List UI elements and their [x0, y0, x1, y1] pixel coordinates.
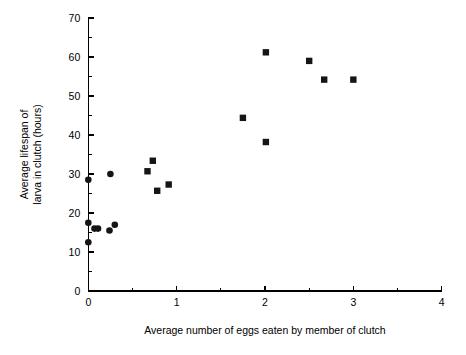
x-tick-label-2: 2: [262, 296, 268, 308]
y-tick-label-70: 70: [69, 12, 81, 24]
x-tick-label-0: 0: [85, 296, 91, 308]
x-axis-title: Average number of eggs eaten by member o…: [144, 324, 386, 336]
y-tick-label-30: 30: [69, 168, 81, 180]
data-point-circle-5: [107, 171, 114, 178]
x-tick-label-1: 1: [174, 296, 180, 308]
y-tick-label-0: 0: [74, 285, 80, 297]
x-tick-label-4: 4: [439, 296, 445, 308]
data-point-square-7: [306, 58, 312, 64]
x-tick-label-3: 3: [350, 296, 356, 308]
data-point-circle-7: [112, 221, 119, 228]
data-point-square-3: [166, 181, 172, 187]
data-point-square-1: [150, 158, 156, 164]
data-point-circle-0: [85, 177, 92, 184]
data-point-square-4: [240, 115, 246, 121]
data-point-square-5: [263, 139, 269, 145]
data-point-square-0: [144, 168, 150, 174]
y-tick-label-40: 40: [69, 129, 81, 141]
data-point-square-8: [321, 76, 327, 82]
y-tick-label-50: 50: [69, 90, 81, 102]
y-tick-label-10: 10: [69, 246, 81, 258]
y-axis-title-line-1: larva in clutch (hours): [31, 104, 43, 204]
y-tick-label-60: 60: [69, 51, 81, 63]
y-tick-label-20: 20: [69, 207, 81, 219]
scatter-plot-figure: 01020304050607001234 Average number of e…: [0, 0, 466, 355]
data-point-circle-2: [85, 239, 92, 246]
plot-canvas: 01020304050607001234 Average number of e…: [0, 0, 466, 355]
y-axis-title-line-0: Average lifespan of: [18, 110, 30, 200]
data-point-circle-1: [85, 219, 92, 226]
data-point-square-6: [263, 49, 269, 55]
data-point-square-9: [350, 76, 356, 82]
data-point-circle-4: [95, 225, 102, 232]
data-point-circle-6: [106, 227, 113, 234]
data-point-square-2: [154, 188, 160, 194]
